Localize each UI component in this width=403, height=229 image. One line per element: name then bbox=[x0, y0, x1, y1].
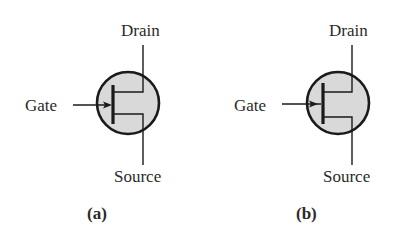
jfet-symbol-b bbox=[282, 45, 369, 165]
drain-label-b: Drain bbox=[329, 22, 368, 39]
drain-label-a: Drain bbox=[121, 22, 160, 39]
source-label-b: Source bbox=[323, 168, 370, 185]
caption-a: (a) bbox=[87, 205, 107, 222]
jfet-symbol-a bbox=[73, 45, 159, 165]
gate-label-b: Gate bbox=[234, 97, 266, 114]
caption-b: (b) bbox=[296, 205, 317, 222]
source-label-a: Source bbox=[114, 168, 161, 185]
gate-label-a: Gate bbox=[25, 97, 57, 114]
device-body-circle-b bbox=[307, 72, 369, 134]
